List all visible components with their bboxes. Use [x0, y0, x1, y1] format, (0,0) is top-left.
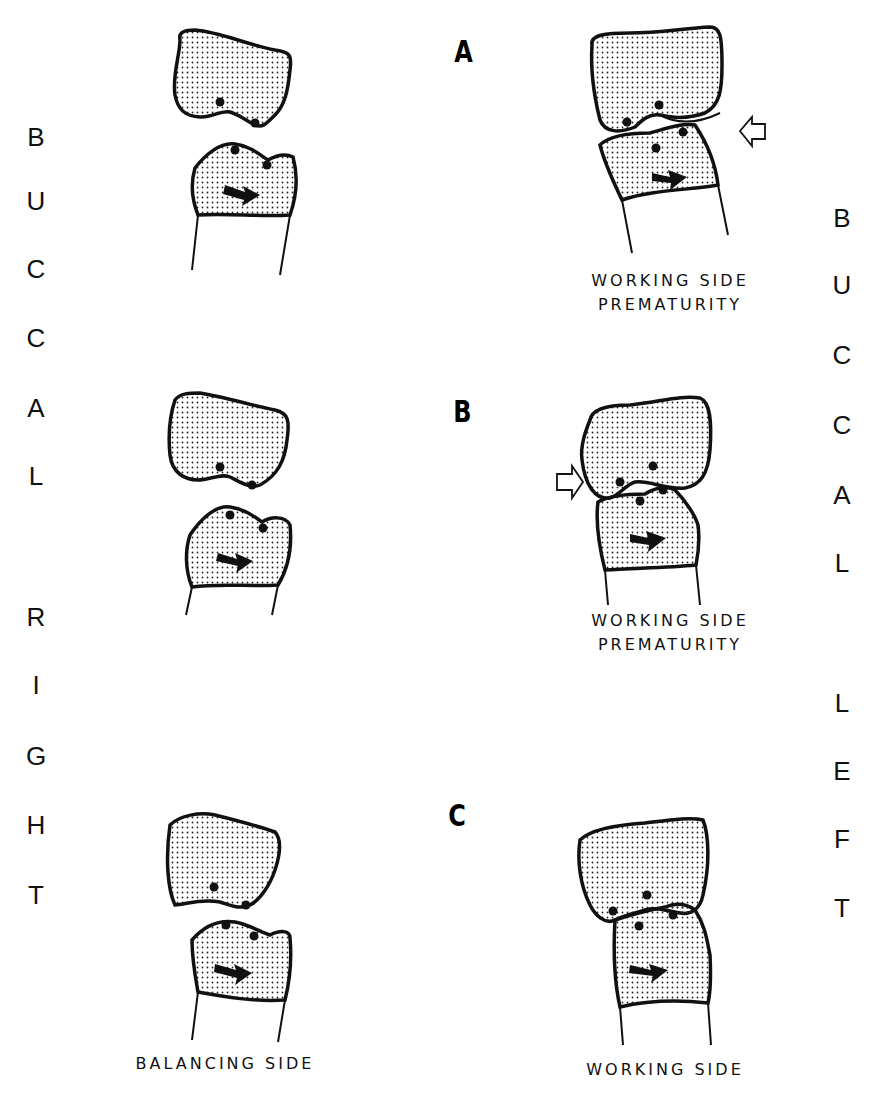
hollow-arrow-right-icon — [557, 466, 583, 498]
caption-row-b-right: WORKING SIDE PREMATURITY — [570, 609, 770, 657]
caption-row-c-right: WORKING SIDE — [565, 1058, 765, 1082]
right-letter: T — [827, 893, 857, 924]
tooth-pair-row-a-right — [580, 25, 760, 255]
tooth-pair-row-a-left — [150, 20, 330, 270]
right-letter: B — [827, 203, 857, 234]
caption-row-c-left: BALANCING SIDE — [100, 1052, 350, 1076]
left-letter: C — [21, 254, 51, 285]
caption-row-a-right: WORKING SIDE PREMATURITY — [570, 269, 770, 317]
left-letter: I — [21, 670, 51, 701]
left-letter: U — [21, 186, 51, 217]
caption-line: PREMATURITY — [570, 293, 770, 317]
tooth-pair-row-b-right — [550, 390, 770, 620]
tooth-pair-row-c-left — [160, 810, 340, 1050]
caption-line: PREMATURITY — [570, 633, 770, 657]
right-letter: L — [827, 548, 857, 579]
left-letter: T — [21, 880, 51, 911]
right-letter: C — [827, 340, 857, 371]
hollow-arrow-left-icon — [740, 117, 765, 146]
right-letter: F — [827, 824, 857, 855]
row-label-a: A — [454, 34, 473, 69]
caption-line: WORKING SIDE — [570, 609, 770, 633]
tooth-pair-row-b-left — [150, 385, 330, 625]
right-letter: C — [827, 410, 857, 441]
left-letter: H — [21, 810, 51, 841]
contact-point — [251, 119, 260, 128]
right-letter: L — [827, 688, 857, 719]
right-letter: E — [827, 756, 857, 787]
row-label-c: C — [448, 798, 466, 833]
caption-line: WORKING SIDE — [570, 269, 770, 293]
contact-point — [231, 146, 240, 155]
tooth-pair-row-c-right — [575, 815, 755, 1055]
tooth-root — [192, 215, 290, 275]
right-letter: A — [827, 480, 857, 511]
right-letter: U — [827, 270, 857, 301]
contact-point — [216, 98, 225, 107]
row-label-b: B — [453, 394, 471, 429]
contact-point — [263, 161, 272, 170]
left-letter: G — [21, 741, 51, 772]
left-letter: B — [21, 122, 51, 153]
left-letter: A — [21, 393, 51, 424]
left-letter: L — [21, 461, 51, 492]
left-letter: C — [21, 323, 51, 354]
left-letter: R — [21, 602, 51, 633]
